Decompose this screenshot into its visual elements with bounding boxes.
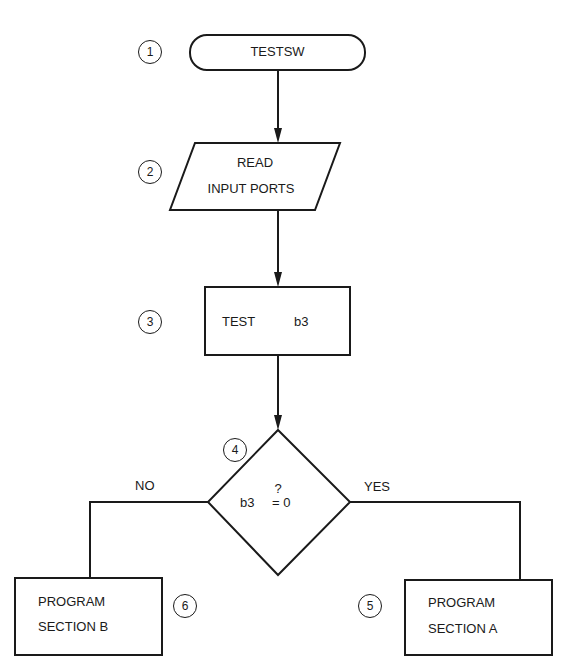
process-label-b3: b3 (294, 311, 324, 333)
process-label-test: TEST (222, 311, 262, 333)
terminal-label: TESTSW (190, 41, 365, 63)
section-b-line2: SECTION B (38, 616, 158, 638)
arrowhead-icon (274, 128, 282, 143)
flowchart-canvas (0, 0, 567, 671)
step-marker-5: 5 (358, 594, 382, 618)
connector-yes (350, 502, 520, 580)
section-a-line1: PROGRAM (428, 592, 548, 614)
io-label-line2: INPUT PORTS (176, 178, 326, 200)
connector-no (90, 502, 208, 578)
step-marker-3: 3 (138, 310, 162, 334)
decision-left-operand: b3 (240, 492, 264, 514)
branch-label-yes: YES (364, 479, 390, 494)
step-marker-2: 2 (138, 160, 162, 184)
decision-right-operand: = 0 (272, 492, 312, 514)
step-marker-4: 4 (223, 438, 247, 462)
branch-label-no: NO (135, 478, 155, 493)
arrowhead-icon (274, 272, 282, 287)
arrowhead-icon (274, 415, 282, 430)
step-marker-1: 1 (138, 40, 162, 64)
section-b-line1: PROGRAM (38, 591, 158, 613)
section-a-line2: SECTION A (428, 618, 548, 640)
io-label-line1: READ (180, 152, 330, 174)
step-marker-6: 6 (173, 594, 197, 618)
